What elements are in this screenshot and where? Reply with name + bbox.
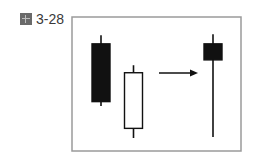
candlestick-chart [0, 0, 257, 159]
candle-2 [125, 65, 143, 138]
candle-1 [92, 35, 110, 106]
right-arrow-icon [159, 70, 198, 77]
combined-candle [204, 34, 222, 137]
combined-candle-body [204, 44, 222, 60]
candle-1-body [92, 44, 110, 102]
candle-2-body [125, 73, 143, 129]
